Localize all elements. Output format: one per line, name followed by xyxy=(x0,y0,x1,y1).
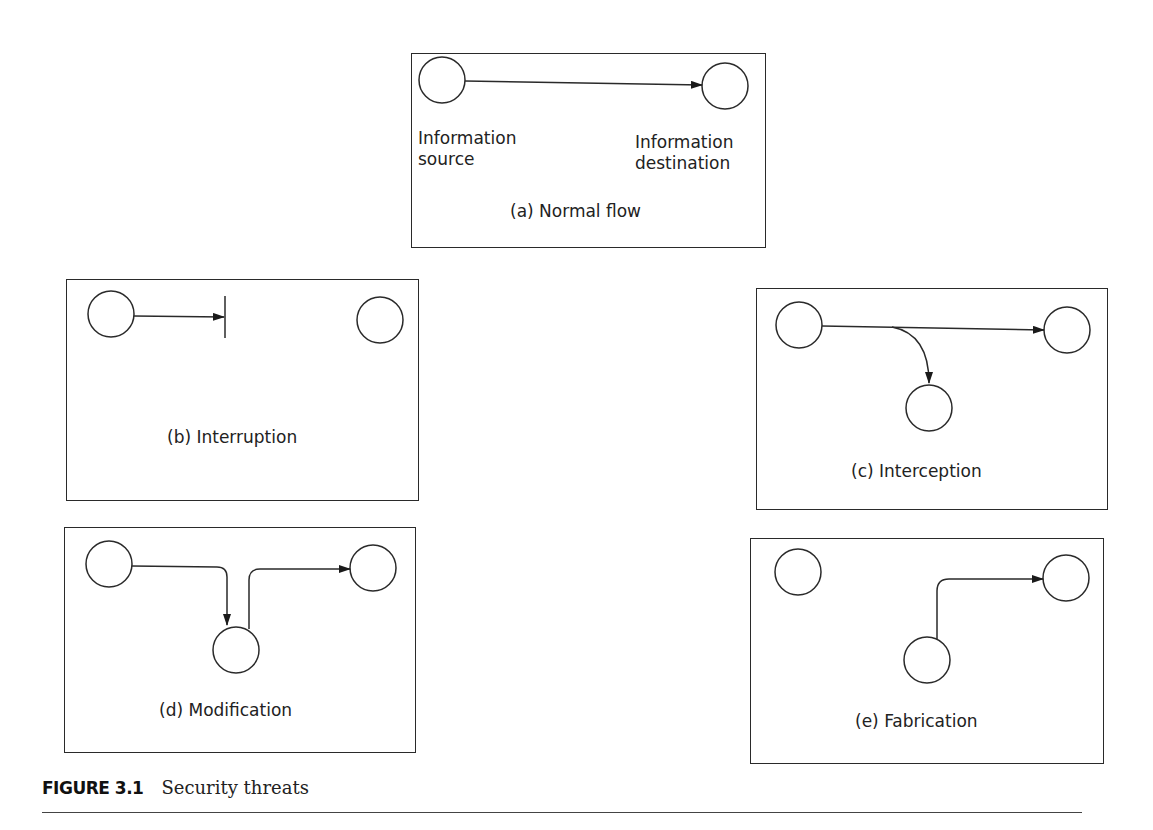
panel-normal-flow: Information source Information destinati… xyxy=(411,53,766,248)
panel-interruption: (b) Interruption xyxy=(66,279,419,501)
source-node xyxy=(88,291,134,337)
panel-modification: (d) Modification xyxy=(64,527,416,753)
panel-interception: (c) Interception xyxy=(756,288,1108,510)
panel-fabrication: (e) Fabrication xyxy=(750,538,1104,764)
fabrication-diagram xyxy=(751,539,1105,765)
source-node xyxy=(775,549,821,595)
from-modifier-arrow xyxy=(249,569,350,629)
figure-number: FIGURE 3.1 xyxy=(42,778,143,798)
caption-fabrication: (e) Fabrication xyxy=(855,711,978,731)
interceptor-node xyxy=(906,385,952,431)
destination-node xyxy=(1044,307,1090,353)
destination-label-line1: Information xyxy=(635,132,733,153)
destination-node xyxy=(702,63,748,109)
caption-rule xyxy=(42,812,1082,813)
caption-modification: (d) Modification xyxy=(159,700,292,720)
source-label-line1: Information xyxy=(418,128,516,149)
figure-caption: FIGURE 3.1Security threats xyxy=(42,777,309,798)
flow-arrow xyxy=(465,81,702,85)
destination-label: Information destination xyxy=(635,132,733,174)
destination-node xyxy=(357,297,403,343)
caption-normal-flow: (a) Normal flow xyxy=(510,201,641,221)
figure-title: Security threats xyxy=(161,777,308,798)
caption-interruption: (b) Interruption xyxy=(167,427,297,447)
source-node xyxy=(776,302,822,348)
intercept-arrow xyxy=(892,327,929,383)
source-label-line2: source xyxy=(418,149,516,170)
source-node xyxy=(419,57,465,103)
source-label: Information source xyxy=(418,128,516,170)
destination-label-line2: destination xyxy=(635,153,733,174)
to-modifier-arrow xyxy=(132,566,227,625)
flow-arrow xyxy=(822,326,1044,330)
interrupted-arrow xyxy=(134,316,224,317)
fabricator-node xyxy=(904,637,950,683)
modification-diagram xyxy=(65,528,417,754)
destination-node xyxy=(350,545,396,591)
modifier-node xyxy=(213,627,259,673)
fabricated-arrow xyxy=(937,579,1043,639)
source-node xyxy=(86,541,132,587)
destination-node xyxy=(1043,555,1089,601)
interruption-diagram xyxy=(67,280,420,502)
caption-interception: (c) Interception xyxy=(851,461,982,481)
